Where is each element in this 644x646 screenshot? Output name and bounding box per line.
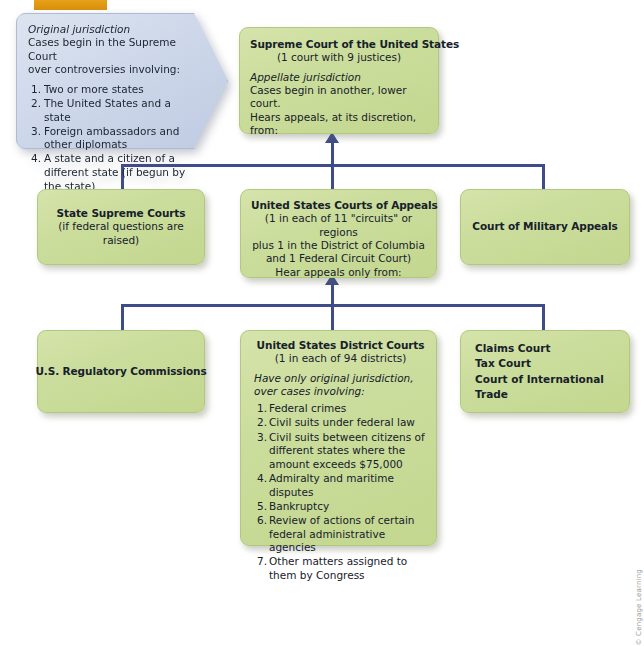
list-item-label: Foreign ambassadors and other diplomats: [44, 125, 179, 151]
connector-drop-appeals: [331, 164, 334, 190]
list-item-label: Federal crimes: [269, 402, 346, 414]
list-item: 2.The United States and a state: [28, 97, 200, 124]
list-item-number: 4.: [254, 472, 267, 486]
list-item-number: 3.: [28, 125, 41, 139]
special-courts-line-2: Tax Court: [475, 356, 619, 371]
list-item: 1.Two or more states: [28, 83, 200, 97]
list-item: 3.Civil suits between citizens of differ…: [254, 431, 427, 472]
list-item-label: Civil suits under federal law: [269, 416, 415, 428]
connector-drop-special: [542, 304, 545, 331]
callout-heading: Original jurisdiction: [28, 23, 200, 36]
list-item-number: 2.: [28, 97, 41, 111]
courts-of-appeals-line-1: (1 in each of 11 "circuits" or regions: [251, 212, 426, 239]
connector-drop-district: [331, 304, 334, 331]
node-courts-of-appeals: United States Courts of Appeals (1 in ea…: [240, 189, 437, 278]
supreme-court-title: Supreme Court of the United States: [250, 38, 428, 51]
node-special-courts: Claims Court Tax Court Court of Internat…: [460, 330, 630, 413]
state-supreme-courts-subtitle: (if federal questions are raised): [48, 220, 194, 247]
list-item-label: Two or more states: [44, 83, 144, 95]
supreme-court-line-1: Cases begin in another, lower court.: [250, 84, 428, 111]
courts-of-appeals-title: United States Courts of Appeals: [251, 199, 426, 212]
district-jurisdiction-line-2: over cases involving:: [254, 385, 427, 398]
list-item: 6.Review of actions of certain federal a…: [254, 514, 427, 555]
node-us-regulatory-commissions: U.S. Regulatory Commissions: [37, 330, 205, 413]
list-item-number: 2.: [254, 416, 267, 430]
list-item-number: 1.: [254, 402, 267, 416]
list-item: 4.Admiralty and maritime disputes: [254, 472, 427, 499]
node-state-supreme-courts: State Supreme Courts (if federal questio…: [37, 189, 205, 265]
list-item: 7.Other matters assigned to them by Cong…: [254, 555, 427, 582]
state-supreme-courts-title: State Supreme Courts: [48, 207, 194, 220]
connector-supreme-drop: [331, 142, 334, 166]
district-courts-list: 1.Federal crimes 2.Civil suits under fed…: [254, 402, 427, 582]
connector-appeals-drop: [331, 284, 334, 306]
list-item-number: 7.: [254, 555, 267, 569]
list-item: 4.A state and a citizen of a different s…: [28, 152, 200, 193]
original-jurisdiction-callout: Original jurisdiction Cases begin in the…: [16, 13, 228, 149]
supreme-court-line-2: Hears appeals, at its discretion, from:: [250, 111, 428, 138]
list-item-number: 6.: [254, 514, 267, 528]
district-courts-subtitle: (1 in each of 94 districts): [254, 352, 427, 365]
list-item: 5.Bankruptcy: [254, 500, 427, 514]
list-item-number: 5.: [254, 500, 267, 514]
courts-of-appeals-line-2: plus 1 in the District of Columbia: [251, 239, 426, 252]
list-item-label: The United States and a state: [44, 97, 171, 123]
list-item-label: A state and a citizen of a different sta…: [44, 152, 185, 191]
copyright-credit: © Cengage Learning: [635, 569, 643, 646]
appellate-jurisdiction-heading: Appellate jurisdiction: [250, 71, 428, 84]
connector-drop-regulatory: [121, 304, 124, 331]
node-us-district-courts: United States District Courts (1 in each…: [240, 330, 437, 546]
list-item-label: Bankruptcy: [269, 500, 329, 512]
accent-bar: [34, 0, 107, 10]
node-supreme-court: Supreme Court of the United States (1 co…: [239, 27, 439, 134]
list-item: 2.Civil suits under federal law: [254, 416, 427, 430]
list-item: 1.Federal crimes: [254, 402, 427, 416]
supreme-court-subtitle: (1 court with 9 justices): [250, 51, 428, 64]
connector-drop-military: [542, 164, 545, 190]
list-item-label: Admiralty and maritime disputes: [269, 472, 394, 498]
list-item-label: Other matters assigned to them by Congre…: [269, 555, 407, 581]
list-item-number: 3.: [254, 431, 267, 445]
regulatory-commissions-title: U.S. Regulatory Commissions: [35, 365, 206, 378]
military-appeals-title: Court of Military Appeals: [472, 220, 617, 233]
list-item: 3.Foreign ambassadors and other diplomat…: [28, 125, 200, 152]
district-courts-title: United States District Courts: [254, 339, 427, 352]
callout-line-2: over controversies involving:: [28, 63, 200, 76]
list-item-label: Review of actions of certain federal adm…: [269, 514, 415, 553]
callout-list: 1.Two or more states 2.The United States…: [28, 83, 200, 194]
district-jurisdiction-line-1: Have only original jurisdiction,: [254, 372, 427, 385]
list-item-number: 1.: [28, 83, 41, 97]
special-courts-line-3: Court of International Trade: [475, 372, 619, 402]
list-item-number: 4.: [28, 152, 41, 166]
courts-of-appeals-line-4: Hear appeals only from:: [251, 266, 426, 279]
list-item-label: Civil suits between citizens of differen…: [269, 431, 425, 470]
callout-line-1: Cases begin in the Supreme Court: [28, 36, 200, 63]
special-courts-line-1: Claims Court: [475, 341, 619, 356]
courts-of-appeals-line-3: and 1 Federal Circuit Court): [251, 252, 426, 265]
node-court-of-military-appeals: Court of Military Appeals: [460, 189, 630, 265]
